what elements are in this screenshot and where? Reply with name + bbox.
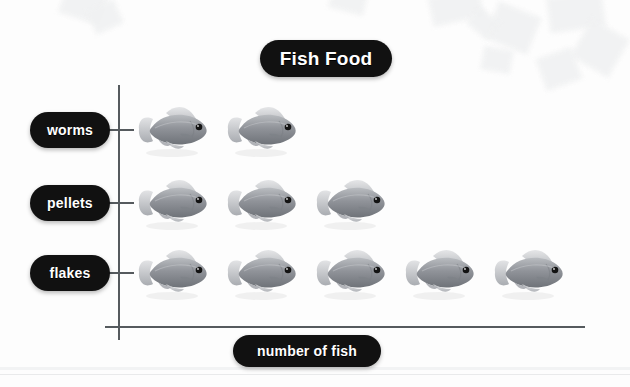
fish-icon xyxy=(136,172,216,234)
fish-icon xyxy=(314,242,394,304)
fish-icon xyxy=(314,172,394,234)
pictograph-row-pellets xyxy=(136,172,403,234)
category-label-pellets-text: pellets xyxy=(47,195,93,211)
fish-icon xyxy=(225,99,305,161)
pictograph-figure: Fish Food worms pellets flakes xyxy=(0,0,630,387)
fish-icon xyxy=(225,172,305,234)
x-axis-label-text: number of fish xyxy=(257,343,357,359)
chart-title: Fish Food xyxy=(260,40,392,77)
fish-icon xyxy=(492,242,572,304)
chart-title-text: Fish Food xyxy=(280,48,373,70)
x-axis xyxy=(105,326,585,328)
category-label-flakes-text: flakes xyxy=(50,265,91,281)
category-label-worms-text: worms xyxy=(47,122,93,138)
fish-icon xyxy=(403,242,483,304)
pictograph-row-worms xyxy=(136,99,314,161)
category-label-pellets: pellets xyxy=(30,185,110,221)
x-axis-label: number of fish xyxy=(233,335,381,367)
fish-icon xyxy=(225,242,305,304)
y-axis xyxy=(118,85,120,340)
fish-icon xyxy=(136,99,216,161)
fish-icon xyxy=(136,242,216,304)
pictograph-row-flakes xyxy=(136,242,581,304)
category-label-flakes: flakes xyxy=(30,255,110,291)
category-label-worms: worms xyxy=(30,112,110,148)
